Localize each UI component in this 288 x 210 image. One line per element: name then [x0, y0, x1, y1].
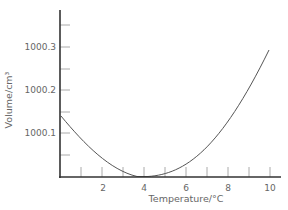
x-tick-label: 10 [264, 183, 276, 193]
y-axis-title: Volume/cm³ [3, 71, 14, 128]
x-axis-ticks [81, 167, 270, 177]
y-axis-ticks [60, 25, 70, 155]
x-tick-label: 2 [100, 183, 106, 193]
x-tick-label: 4 [141, 183, 147, 193]
plot-area [59, 10, 281, 178]
x-tick-label: 6 [183, 183, 189, 193]
x-tick-labels: 2 4 6 8 10 [100, 183, 276, 193]
x-tick-label: 8 [225, 183, 231, 193]
y-tick-label: 1000.1 [25, 128, 57, 138]
x-axis-title: Temperature/°C [148, 193, 224, 204]
y-tick-label: 1000.2 [25, 85, 57, 95]
y-tick-label: 1000.3 [25, 42, 57, 52]
volume-curve [61, 50, 269, 177]
chart: 1000.3 1000.2 1000.1 2 4 6 8 10 Temperat… [0, 0, 288, 210]
y-tick-labels: 1000.3 1000.2 1000.1 [25, 42, 57, 138]
